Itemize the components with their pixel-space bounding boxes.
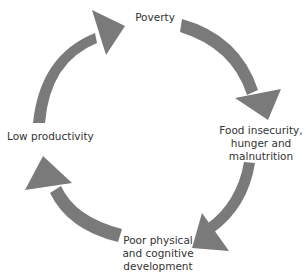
arrow-productivity-to-poverty [33,10,125,123]
node-food-line-2: hunger and [216,137,306,150]
node-low-productivity: Low productivity [7,130,97,143]
node-food-line-1: Food insecurity, [216,124,306,137]
node-poverty: Poverty [133,11,177,24]
node-development-line-1: Poor physical [120,234,196,247]
node-poor-development: Poor physical and cognitive development [120,234,196,273]
arrow-food-to-development [192,162,255,251]
node-productivity-label: Low productivity [7,130,94,142]
arrow-development-to-productivity [25,156,122,242]
node-development-line-2: and cognitive [120,247,196,260]
node-food-line-3: malnutrition [216,150,306,163]
arrow-poverty-to-food [180,19,281,120]
node-development-line-3: development [120,260,196,273]
node-food-insecurity: Food insecurity, hunger and malnutrition [216,124,306,163]
node-poverty-label: Poverty [135,11,175,23]
